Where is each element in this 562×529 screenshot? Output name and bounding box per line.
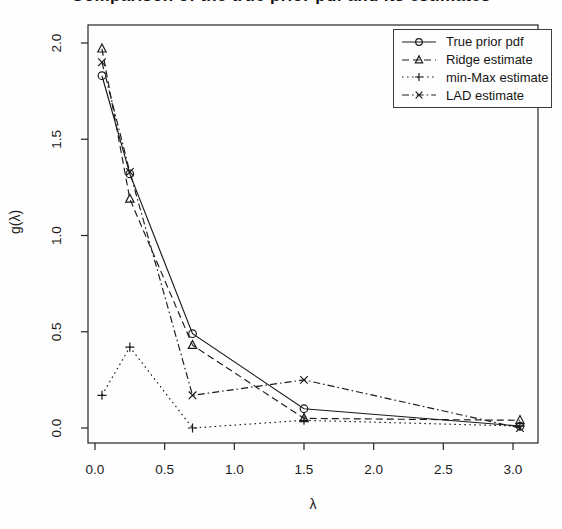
figure: Comparison of the true prior pdf and its… bbox=[0, 0, 562, 529]
x-tick-label: 0.5 bbox=[155, 462, 174, 477]
series-marker bbox=[97, 391, 106, 400]
series-line bbox=[102, 62, 520, 428]
series-marker bbox=[189, 391, 197, 399]
legend-key-swatch bbox=[400, 53, 438, 67]
series-marker bbox=[98, 72, 106, 80]
chart-title: Comparison of the true prior pdf and its… bbox=[0, 0, 562, 6]
legend-marker-triangle bbox=[415, 55, 422, 62]
y-tick-label: 2.0 bbox=[49, 34, 64, 53]
y-tick-label: 1.5 bbox=[49, 130, 64, 149]
legend-label: min-Max estimate bbox=[446, 70, 549, 85]
legend-label: True prior pdf bbox=[446, 34, 524, 49]
x-tick-label: 0.0 bbox=[86, 462, 105, 477]
cropped-title-strip: Comparison of the true prior pdf and its… bbox=[0, 0, 562, 7]
x-tick-label: 2.0 bbox=[364, 462, 383, 477]
series-line bbox=[102, 76, 520, 426]
x-tick-label: 1.5 bbox=[295, 462, 314, 477]
y-axis-label: g(λ) bbox=[7, 210, 23, 234]
y-tick-label: 1.0 bbox=[49, 226, 64, 245]
series-marker bbox=[188, 423, 197, 432]
legend-item: LAD estimate bbox=[400, 87, 547, 103]
x-tick-label: 2.5 bbox=[434, 462, 453, 477]
legend-label: LAD estimate bbox=[446, 88, 524, 103]
legend-item: min-Max estimate bbox=[400, 69, 547, 85]
series-marker bbox=[126, 194, 134, 202]
x-tick-label: 3.0 bbox=[504, 462, 523, 477]
series-marker bbox=[299, 416, 308, 425]
legend-item: True prior pdf bbox=[400, 34, 547, 50]
legend-key-swatch bbox=[400, 70, 438, 84]
legend-item: Ridge estimate bbox=[400, 52, 547, 68]
legend-key-swatch bbox=[400, 88, 438, 102]
y-tick-label: 0.5 bbox=[49, 322, 64, 341]
legend: True prior pdfRidge estimatemin-Max esti… bbox=[393, 29, 552, 108]
legend-label: Ridge estimate bbox=[446, 52, 533, 67]
x-tick-label: 1.0 bbox=[225, 462, 244, 477]
legend-marker-plus bbox=[415, 73, 423, 81]
legend-key-swatch bbox=[400, 35, 438, 49]
series-line bbox=[102, 347, 520, 428]
x-axis-label: λ bbox=[310, 496, 317, 512]
y-tick-label: 0.0 bbox=[49, 419, 64, 438]
